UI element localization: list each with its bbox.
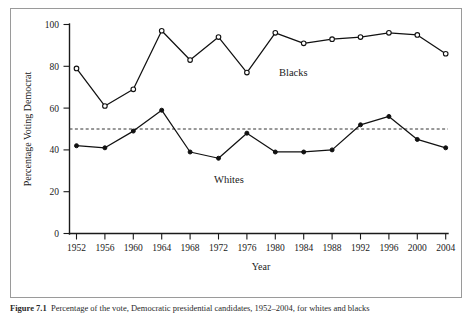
series-line-blacks [77, 31, 446, 106]
data-point [245, 131, 249, 135]
data-point [415, 137, 419, 141]
data-point [302, 150, 306, 154]
data-point [216, 35, 221, 40]
data-point [415, 33, 420, 38]
x-tick-label-1964: 1964 [152, 243, 171, 253]
y-tick-label-40: 40 [50, 145, 60, 155]
data-point [103, 104, 108, 109]
x-tick-label-1952: 1952 [67, 243, 86, 253]
data-point [330, 148, 334, 152]
x-tick-label-2004: 2004 [436, 243, 455, 253]
y-axis-title: Percentage Voting Democrat [22, 71, 33, 186]
x-tick-label-1988: 1988 [323, 243, 342, 253]
x-tick-label-1976: 1976 [237, 243, 256, 253]
data-point [188, 150, 192, 154]
x-axis-ticks [77, 234, 446, 240]
data-point [160, 108, 164, 112]
data-point [301, 41, 306, 46]
y-axis-ticks [64, 25, 70, 234]
data-point [273, 31, 278, 36]
x-tick-label-1960: 1960 [124, 243, 143, 253]
y-tick-label-20: 20 [50, 187, 60, 197]
figure-caption-label: Figure 7.1 [10, 303, 47, 313]
data-point [131, 87, 136, 92]
x-tick-label-1972: 1972 [209, 243, 228, 253]
x-tick-label-1980: 1980 [266, 243, 285, 253]
y-tick-label-60: 60 [50, 104, 60, 114]
data-point [103, 146, 107, 150]
x-tick-label-1968: 1968 [181, 243, 200, 253]
figure-caption: Figure 7.1 Percentage of the vote, Democ… [10, 303, 462, 313]
x-axis-title: Year [252, 261, 271, 272]
series-label-whites: Whites [214, 174, 244, 185]
figure-caption-body: Percentage of the vote, Democratic presi… [51, 303, 370, 313]
data-point [443, 51, 448, 56]
x-tick-label-1984: 1984 [294, 243, 313, 253]
data-point [159, 28, 164, 33]
x-tick-label-1996: 1996 [379, 243, 398, 253]
data-point [74, 66, 79, 71]
data-point [75, 144, 79, 148]
data-point [358, 35, 363, 40]
data-point [330, 37, 335, 42]
line-chart: 100 80 60 40 20 0 Percentage Voting Demo… [0, 0, 472, 317]
y-tick-label-0: 0 [54, 229, 59, 239]
x-tick-label-1956: 1956 [95, 243, 114, 253]
data-point [131, 129, 135, 133]
figure-root: 100 80 60 40 20 0 Percentage Voting Demo… [0, 0, 472, 317]
data-point [387, 31, 392, 36]
data-point [359, 123, 363, 127]
series-label-blacks: Blacks [279, 67, 308, 78]
series-markers-whites [75, 108, 448, 160]
data-point [444, 146, 448, 150]
data-point [188, 58, 193, 63]
y-tick-label-80: 80 [50, 62, 60, 72]
data-point [273, 150, 277, 154]
x-tick-label-2000: 2000 [408, 243, 427, 253]
y-tick-label-100: 100 [45, 20, 60, 30]
data-point [217, 156, 221, 160]
data-point [387, 114, 391, 118]
data-point [245, 70, 250, 75]
x-tick-label-1992: 1992 [351, 243, 370, 253]
series-markers-blacks [74, 28, 448, 108]
